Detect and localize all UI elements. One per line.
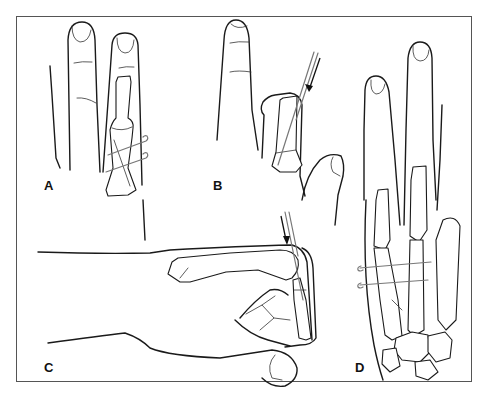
panel-label-a: A [44, 178, 53, 193]
illustration [0, 0, 485, 394]
panel-label-d: D [355, 360, 364, 375]
panel-label-b: B [213, 178, 222, 193]
panel-d-drawing [358, 42, 460, 380]
panel-c-drawing [38, 200, 316, 386]
panel-a-drawing [50, 22, 148, 196]
figure: A B C D [0, 0, 485, 394]
panel-b-drawing [217, 20, 344, 225]
panel-label-c: C [44, 360, 53, 375]
